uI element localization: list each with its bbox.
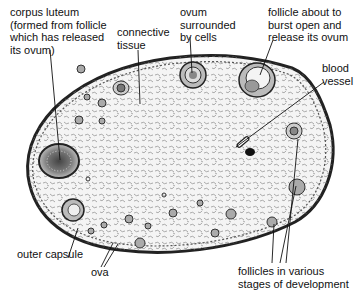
label-corpus-luteum: corpus luteum (formed from follicle whic… xyxy=(10,6,107,56)
follicle-ovum-surrounded xyxy=(180,62,206,88)
follicle-about-to-burst xyxy=(239,63,275,97)
follicle-lower-left xyxy=(62,199,84,221)
label-blood-vessel: blood vessel xyxy=(322,62,353,87)
label-connective-tissue: connective tissue xyxy=(117,26,170,51)
label-ova: ova xyxy=(91,266,109,279)
ovary-diagram: corpus luteum (formed from follicle whic… xyxy=(0,0,358,290)
label-follicle-burst: follicle about to burst open and release… xyxy=(268,6,348,44)
label-follicles-stages: follicles in various stages of developme… xyxy=(238,265,349,290)
label-ovum-surrounded: ovum surrounded by cells xyxy=(180,6,236,44)
label-outer-capsule: outer capsule xyxy=(17,248,83,261)
